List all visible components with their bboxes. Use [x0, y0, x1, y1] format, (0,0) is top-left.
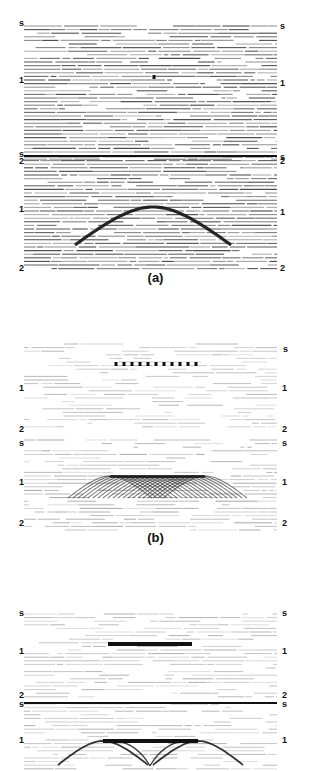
axis-label-depth-1-right: 1 [282, 384, 287, 393]
trace-plot [0, 610, 311, 702]
trace-plot [0, 700, 311, 771]
trace-plot [0, 340, 311, 430]
axis-label-surface-left: s [19, 700, 24, 709]
axis-label-depth-1-left: 1 [19, 736, 24, 745]
axis-label-depth-2-left: 2 [19, 425, 24, 434]
axis-label-depth-1-left: 1 [19, 384, 24, 393]
panel-a2: ss1122 [0, 153, 311, 273]
axis-label-depth-2-left: 2 [19, 519, 24, 528]
panel-a1: ss1122 [0, 22, 311, 162]
axis-label-depth-2-right: 2 [282, 425, 287, 434]
axis-label-surface-left: s [19, 609, 24, 618]
axis-label-depth-1-left: 1 [19, 647, 24, 656]
panel-c1: ss1122 [0, 610, 311, 702]
axis-label-surface-right: s [282, 609, 287, 618]
axis-label-surface-right: s [280, 22, 285, 31]
trace-plot [0, 436, 311, 532]
axis-label-surface-left: s [19, 439, 24, 448]
axis-label-depth-1-right: 1 [282, 478, 287, 487]
panel-b2: ss1122 [0, 436, 311, 532]
trace-plot [0, 153, 311, 273]
axis-label-surface-left: s [19, 19, 24, 28]
axis-label-depth-1-right: 1 [280, 79, 285, 88]
axis-label-depth-1-left: 1 [19, 205, 24, 214]
panel-b1: s1122 [0, 340, 311, 430]
axis-label-depth-2-right: 2 [282, 519, 287, 528]
caption-a: (a) [0, 270, 311, 285]
axis-label-depth-1-right: 1 [282, 736, 287, 745]
axis-label-surface-right: s [280, 153, 285, 162]
axis-label-surface-right: s [282, 439, 287, 448]
caption-b: (b) [0, 530, 311, 545]
axis-label-surface-left: s [19, 150, 24, 159]
trace-plot [0, 22, 311, 162]
panel-c2: ss11 [0, 700, 311, 771]
axis-label-surface-right: s [282, 700, 287, 709]
axis-label-surface-right: s [283, 345, 288, 354]
axis-label-depth-1-left: 1 [19, 76, 24, 85]
axis-label-depth-1-right: 1 [280, 208, 285, 217]
axis-label-depth-1-right: 1 [282, 647, 287, 656]
axis-label-depth-1-left: 1 [19, 478, 24, 487]
